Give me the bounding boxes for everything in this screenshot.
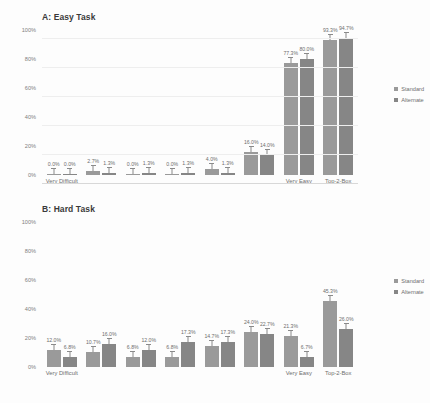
bar-value-label: 0.0% [127,161,139,167]
bar-value-label: 80.0% [299,46,314,52]
bar-alternate[interactable]: 1.3% [102,173,116,175]
bar-value-label: 0.0% [166,161,178,167]
bar-group: 6.8%12.0% [121,222,161,367]
error-bar-cap [186,336,191,337]
error-bar-cap [249,146,254,147]
chart-panel-hard-task: B: Hard Task 0%20%40%60%80%100% 12.0%6.8… [0,200,430,395]
error-bar-cap [51,344,56,345]
error-bar [93,165,94,171]
bar-alternate[interactable]: 1.3% [221,173,235,175]
bar-standard[interactable]: 0.0% [165,174,179,175]
page-title-b: B: Hard Task [42,204,95,214]
bar-value-label: 6.8% [64,344,76,350]
y-axis-tick: 60% [25,277,36,283]
bar-alternate[interactable]: 26.0% [339,329,353,367]
bar-alternate[interactable]: 17.3% [181,342,195,367]
bar-value-label: 6.7% [301,344,313,350]
page-title: A: Easy Task [42,12,96,22]
bar-standard[interactable]: 2.7% [86,171,100,175]
y-axis-tick: 60% [25,85,36,91]
bar-value-label: 14.7% [204,333,219,339]
bar-standard[interactable]: 45.3% [323,301,337,367]
gridline [42,154,358,155]
bar-alternate[interactable]: 22.7% [260,334,274,367]
bar-alternate[interactable]: 12.0% [142,350,156,367]
bar-value-label: 1.3% [182,160,194,166]
y-axis-tick: 40% [25,306,36,312]
error-bar [290,330,291,336]
bar-alternate[interactable]: 1.3% [181,173,195,175]
x-axis-tick-label: Very Difficult [46,370,78,376]
bar-alternate[interactable]: 0.0% [63,174,77,175]
bar-group: 14.7%17.3% [200,222,240,367]
bar-alternate[interactable]: 6.8% [63,357,77,367]
error-bar-cap [225,336,230,337]
bar-alternate[interactable]: 16.0% [102,344,116,367]
error-bar-cap [107,167,112,168]
bar-standard[interactable]: 4.0% [205,169,219,175]
bar-standard[interactable]: 24.0% [244,332,258,367]
bar-value-label: 24.0% [244,319,259,325]
bar-value-label: 6.8% [166,344,178,350]
bar-group: 24.0%22.7% [240,222,280,367]
error-bar-cap [344,323,349,324]
error-bar-cap [225,167,230,168]
y-axis-tick: 0% [28,364,36,370]
bar-standard[interactable]: 0.0% [47,174,61,175]
bar-value-label: 12.0% [46,337,61,343]
bar-standard[interactable]: 16.0% [244,152,258,175]
plot-area-hard: 12.0%6.8%Very Difficult10.7%16.0%6.8%12.… [42,222,358,367]
x-axis-tick-label: Top-2-Box [325,370,351,376]
legend-label-standard: Standard [401,86,424,92]
bar-alternate[interactable]: 6.7% [300,357,314,367]
error-bar-cap [130,351,135,352]
error-bar [148,167,149,173]
error-bar [211,163,212,169]
error-bar-cap [91,165,96,166]
bar-standard[interactable]: 21.3% [284,336,298,367]
bar-value-label: 0.0% [64,161,76,167]
y-axis-tick: 100% [22,219,36,225]
error-bar-cap [67,351,72,352]
bar-standard[interactable]: 0.0% [126,174,140,175]
error-bar-cap [146,344,151,345]
gridline [42,96,358,97]
error-bar [188,336,189,342]
bar-standard[interactable]: 77.3% [284,63,298,175]
error-bar-cap [51,168,56,169]
bar-alternate[interactable]: 17.3% [221,342,235,367]
legend-item-alternate-b: Alternate [394,289,424,295]
bar-standard[interactable]: 14.7% [205,346,219,367]
error-bar-cap [130,168,135,169]
error-bar-cap [304,351,309,352]
bar-standard[interactable]: 6.8% [126,357,140,367]
error-bar [53,344,54,350]
error-bar-cap [170,351,175,352]
bar-value-label: 1.3% [222,160,234,166]
error-bar [346,323,347,329]
gridline [42,125,358,126]
error-bar [148,344,149,350]
error-bar-cap [170,168,175,169]
legend-easy: Standard Alternate [394,86,424,108]
bar-group: 45.3%26.0% [319,222,359,367]
bar-value-label: 17.3% [220,329,235,335]
error-bar [211,340,212,346]
legend-hard: Standard Alternate [394,278,424,300]
error-bar [53,168,54,174]
bar-standard[interactable]: 12.0% [47,350,61,367]
bar-alternate[interactable]: 80.0% [300,59,314,175]
bar-alternate[interactable]: 14.0% [260,155,274,175]
error-bar-cap [328,34,333,35]
legend-swatch-standard [394,87,398,91]
bar-alternate[interactable]: 1.3% [142,173,156,175]
y-axis-tick: 80% [25,248,36,254]
bar-value-label: 94.7% [339,25,354,31]
error-bar-cap [146,167,151,168]
error-bar-cap [265,149,270,150]
bar-standard[interactable]: 6.8% [165,357,179,367]
error-bar-cap [265,328,270,329]
bar-standard[interactable]: 10.7% [86,352,100,368]
error-bar [132,168,133,174]
error-bar-cap [186,167,191,168]
